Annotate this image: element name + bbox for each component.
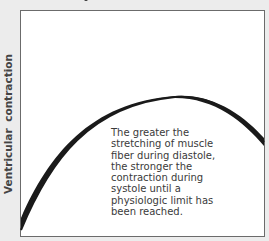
cut-off-title-fragment [84,0,88,1]
caption-line: fiber during diastole, [111,150,211,161]
caption-line: stretching of muscle [111,138,211,149]
caption-line: systole until a [111,183,211,194]
caption-line: the stronger the [111,161,211,172]
caption-text: The greater the stretching of muscle fib… [111,127,211,217]
y-axis-label: Ventricular contraction [2,49,16,199]
caption-line: contraction during [111,172,211,183]
caption-line: been reached. [111,206,211,217]
caption-line: physiologic limit has [111,195,211,206]
caption-line: The greater the [111,127,211,138]
